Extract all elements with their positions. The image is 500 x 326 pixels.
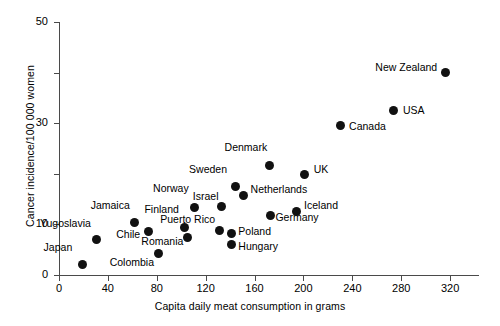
data-point-jamaica <box>130 218 139 227</box>
point-label-puerto-rico: Puerto Rico <box>160 214 215 225</box>
data-point-puerto-rico <box>215 226 224 235</box>
x-tick-240 <box>352 276 353 281</box>
data-point-usa <box>389 106 398 115</box>
data-point-denmark <box>265 161 274 170</box>
data-point-norway <box>190 203 199 212</box>
data-point-canada <box>336 121 345 130</box>
data-point-poland <box>227 229 236 238</box>
point-label-sweden: Sweden <box>189 164 227 175</box>
x-tick-label-200: 200 <box>283 283 323 294</box>
point-label-poland: Poland <box>238 226 271 237</box>
point-label-new-zealand: New Zealand <box>375 62 437 73</box>
x-tick-label-40: 40 <box>88 283 128 294</box>
point-label-jamaica: Jamaica <box>91 200 130 211</box>
point-label-canada: Canada <box>349 121 386 132</box>
x-tick-160 <box>255 276 256 281</box>
data-point-netherlands <box>239 191 248 200</box>
data-point-israel <box>217 202 226 211</box>
x-tick-label-80: 80 <box>137 283 177 294</box>
x-tick-label-160: 160 <box>235 283 275 294</box>
point-label-chile: Chile <box>116 229 140 240</box>
point-label-iceland: Iceland <box>304 200 338 211</box>
point-label-romania: Romania <box>141 236 183 247</box>
point-label-colombia: Colombia <box>110 257 154 268</box>
y-tick-label-50: 50 <box>14 16 48 27</box>
point-label-netherlands: Netherlands <box>251 184 308 195</box>
point-label-israel: Israel <box>193 191 219 202</box>
data-point-iceland <box>292 207 301 216</box>
data-point-hungary <box>227 240 236 249</box>
y-axis-title: Cancer incidence/100 000 women <box>24 31 36 261</box>
x-tick-label-240: 240 <box>332 283 372 294</box>
data-point-new-zealand <box>441 68 450 77</box>
point-label-norway: Norway <box>153 183 189 194</box>
x-tick-120 <box>206 276 207 281</box>
x-tick-280 <box>401 276 402 281</box>
data-point-japan <box>78 260 87 269</box>
point-label-japan: Japan <box>44 242 73 253</box>
x-tick-80 <box>157 276 158 281</box>
x-tick-label-320: 320 <box>430 283 470 294</box>
x-tick-0 <box>59 276 60 281</box>
point-label-denmark: Denmark <box>225 142 268 153</box>
x-tick-40 <box>108 276 109 281</box>
data-point-uk <box>300 170 309 179</box>
point-label-yugoslavia: Yugoslavia <box>40 218 91 229</box>
data-point-romania <box>183 233 192 242</box>
plot-area: JapanYugoslaviaJamaicaChileColombiaFinla… <box>59 22 455 275</box>
x-axis-title: Capita daily meat consumption in grams <box>0 300 500 312</box>
x-tick-label-280: 280 <box>381 283 421 294</box>
x-tick-320 <box>450 276 451 281</box>
x-axis-line <box>59 275 479 276</box>
data-point-germany <box>266 211 275 220</box>
x-tick-label-120: 120 <box>186 283 226 294</box>
data-point-yugoslavia <box>92 235 101 244</box>
x-tick-200 <box>303 276 304 281</box>
scatter-chart: 0103050 04080120160200240280320 Cancer i… <box>0 0 500 326</box>
point-label-uk: UK <box>314 164 329 175</box>
point-label-usa: USA <box>403 105 425 116</box>
point-label-hungary: Hungary <box>238 241 278 252</box>
y-tick-label-0: 0 <box>14 269 48 280</box>
data-point-colombia <box>154 249 163 258</box>
data-point-sweden <box>231 182 240 191</box>
x-tick-label-0: 0 <box>39 283 79 294</box>
